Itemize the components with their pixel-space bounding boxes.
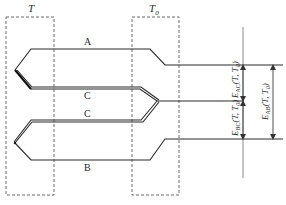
wire-c-upper-label: C — [84, 90, 91, 101]
wire-b-label: B — [84, 162, 91, 173]
lower-junction — [14, 142, 16, 144]
wire-c-lower-label: C — [84, 108, 91, 119]
hot-zone-label: T — [28, 2, 35, 14]
eac-label: EAC(T, T0) — [230, 61, 241, 99]
reference-zone-label: T0 — [149, 2, 159, 17]
upper-junction — [15, 70, 31, 89]
wire-a-label: A — [84, 36, 92, 47]
wire-c-upper-outer — [15, 70, 243, 101]
ebc-label: EBC(T, T0) — [230, 100, 241, 137]
hot-zone-box — [6, 17, 54, 195]
thermocouple-diagram: T T0 A C C B EAC(T, T0) EBC(T, T0) EAB(T… — [0, 0, 286, 205]
eab-label: EAB(T, T0) — [260, 83, 271, 121]
